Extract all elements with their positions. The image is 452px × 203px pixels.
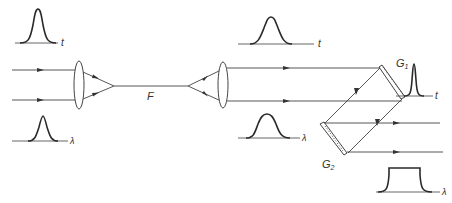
wavelength-axis-label: λ — [441, 187, 446, 197]
broadened-temporal-pulse: t — [238, 17, 322, 49]
collimated-beam — [227, 66, 402, 103]
time-axis-label: t — [61, 37, 65, 48]
coupling-lens — [74, 61, 84, 109]
wavelength-axis-label: λ — [301, 133, 306, 143]
grating-g1-label: G1 — [396, 57, 409, 70]
time-axis-label: t — [318, 38, 322, 49]
grating-g1: G1 — [379, 57, 409, 99]
grating-g2: G2 — [320, 122, 347, 171]
pulse-compression-diagram: t λ F t — [0, 0, 452, 203]
optical-fiber: F — [114, 86, 188, 102]
input-beam — [12, 68, 76, 102]
input-temporal-pulse: t — [15, 9, 65, 48]
time-axis-label: t — [435, 90, 439, 101]
broadened-spectrum-pulse: λ — [238, 114, 306, 143]
input-spectrum-pulse: λ — [12, 116, 74, 146]
wavelength-axis-label: λ — [69, 136, 74, 146]
diverging-rays — [188, 70, 221, 101]
collimating-lens — [218, 62, 228, 108]
flat-top-spectrum: λ — [376, 168, 446, 197]
fiber-label: F — [147, 90, 155, 102]
grating-g2-label: G2 — [322, 158, 335, 171]
converging-rays — [83, 72, 114, 99]
